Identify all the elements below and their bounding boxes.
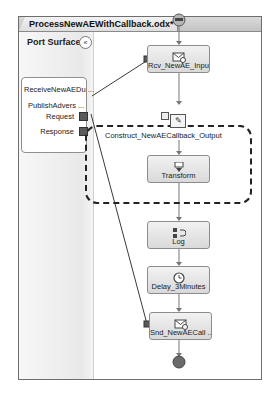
port-name: ReceiveNewAEDu ... — [24, 85, 94, 94]
receive-icon — [148, 49, 209, 60]
delay-shape[interactable]: Delay_3Minutes — [147, 266, 210, 294]
port-operation-name: PublishAdvers ... — [28, 101, 84, 110]
transform-shape[interactable]: Transform — [147, 155, 210, 183]
port-response-label: Response — [40, 127, 74, 136]
send-shape[interactable]: Snd_NewAECall ... — [149, 312, 212, 340]
send-shape-label: Snd_NewAECall ... — [150, 328, 211, 337]
send-icon — [150, 316, 211, 327]
tab-orchestration-file[interactable]: ProcessNewAEWithCallback.odx* — [19, 17, 178, 31]
collapse-port-surface-button[interactable]: « — [79, 36, 92, 49]
top-margin — [0, 0, 276, 6]
clock-icon — [148, 270, 209, 281]
log-shape-label: Log — [148, 237, 209, 246]
tab-strip: ProcessNewAEWithCallback.odx* — [19, 17, 261, 32]
construct-message-icon[interactable]: ✎ — [170, 114, 186, 128]
expression-icon — [148, 225, 209, 236]
receive-shape[interactable]: Rcv_NewAE_Input — [147, 45, 210, 73]
construct-collapse-toggle[interactable] — [161, 112, 169, 120]
port-request-label: Request — [46, 112, 74, 121]
construct-message-label: Construct_NewAECallback_Output — [105, 131, 222, 140]
port-surface-title: Port Surface — [27, 37, 81, 47]
expression-shape-log[interactable]: Log — [147, 221, 210, 249]
receive-shape-label: Rcv_NewAE_Input — [148, 61, 209, 70]
request-port-connector[interactable] — [79, 112, 88, 121]
logical-port[interactable]: ReceiveNewAEDu ... PublishAdvers ... Req… — [21, 77, 87, 153]
transform-shape-label: Transform — [148, 171, 209, 180]
delay-shape-label: Delay_3Minutes — [148, 282, 209, 291]
transform-icon — [148, 159, 209, 170]
port-surface-panel: Port Surface « ReceiveNewAEDu ... Publis… — [19, 32, 94, 379]
